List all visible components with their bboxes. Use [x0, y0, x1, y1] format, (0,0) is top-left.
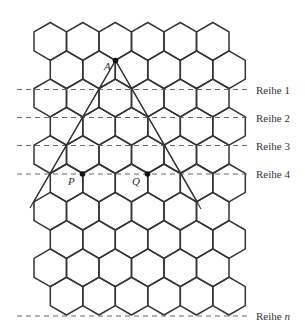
hexagon	[148, 107, 181, 145]
hexagon	[180, 164, 213, 202]
point-a-label: A	[103, 60, 111, 72]
hexagon	[34, 192, 67, 230]
hexagon	[164, 249, 197, 287]
ray-line	[116, 61, 202, 210]
hexagon	[115, 107, 148, 145]
row-labels: Reihe 1Reihe 2Reihe 3Reihe 4Reihe n	[256, 84, 290, 323]
hexagon	[83, 221, 116, 259]
hexagon	[148, 164, 181, 202]
hexagon	[99, 192, 132, 230]
hexagon	[180, 51, 213, 89]
point-q-label: Q	[132, 175, 140, 187]
hexagon	[132, 79, 165, 117]
row-label: Reihe 1	[256, 84, 290, 96]
hexagon	[213, 107, 246, 145]
hexagon-grid	[34, 23, 245, 316]
hexagon	[197, 192, 230, 230]
hexagon	[180, 221, 213, 259]
row-label: Reihe 2	[256, 112, 290, 124]
hexagon	[197, 249, 230, 287]
hexagon	[115, 277, 148, 315]
point-q-dot	[145, 171, 151, 177]
hexagon	[99, 136, 132, 174]
hexagon	[50, 277, 83, 315]
hexagon	[50, 221, 83, 259]
hexagon	[213, 164, 246, 202]
hexagon	[83, 164, 116, 202]
hexagon	[180, 107, 213, 145]
hexagon	[50, 164, 83, 202]
row-label: Reihe 4	[256, 168, 290, 180]
hexagon	[180, 277, 213, 315]
hexagon	[132, 23, 165, 61]
row-label: Reihe n	[256, 310, 290, 322]
hexagon	[164, 79, 197, 117]
row-lines	[17, 90, 249, 317]
hexagon	[132, 249, 165, 287]
hexagon	[99, 23, 132, 61]
hexagon	[83, 277, 116, 315]
hexagon	[99, 79, 132, 117]
hexagon	[67, 192, 100, 230]
hexagon	[67, 23, 100, 61]
row-label: Reihe 3	[256, 140, 290, 152]
hexagon	[115, 221, 148, 259]
point-p-dot	[80, 171, 86, 177]
hexagon	[148, 221, 181, 259]
hexagon-grid-figure: APQ Reihe 1Reihe 2Reihe 3Reihe 4Reihe n	[0, 0, 305, 336]
hexagon	[67, 136, 100, 174]
hexagon	[164, 23, 197, 61]
hexagon	[213, 51, 246, 89]
hexagon	[164, 136, 197, 174]
hexagon	[213, 221, 246, 259]
hexagon	[83, 107, 116, 145]
hexagon	[164, 192, 197, 230]
hexagon	[148, 51, 181, 89]
hexagon	[50, 51, 83, 89]
hexagon	[132, 192, 165, 230]
hexagon	[197, 79, 230, 117]
hexagon	[148, 277, 181, 315]
hexagon	[213, 277, 246, 315]
hexagon	[132, 136, 165, 174]
point-a-dot	[113, 58, 119, 64]
hexagon	[34, 79, 67, 117]
hexagon	[67, 249, 100, 287]
hexagon	[197, 136, 230, 174]
point-p-label: P	[67, 175, 75, 187]
hexagon	[99, 249, 132, 287]
hexagon	[34, 249, 67, 287]
hexagon	[197, 23, 230, 61]
hexagon	[34, 23, 67, 61]
